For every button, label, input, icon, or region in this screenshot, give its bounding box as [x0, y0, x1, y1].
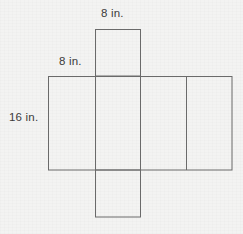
- bottom-flap-rectangle: [96, 170, 141, 217]
- dimension-label-front-face-height: 16 in.: [9, 111, 38, 123]
- dimension-label-top-flap-width: 8 in.: [101, 7, 124, 19]
- dimension-label-front-face-width: 8 in.: [59, 55, 82, 67]
- top-flap-rectangle: [96, 30, 141, 77]
- figure-canvas: 8 in. 8 in. 16 in.: [0, 0, 243, 234]
